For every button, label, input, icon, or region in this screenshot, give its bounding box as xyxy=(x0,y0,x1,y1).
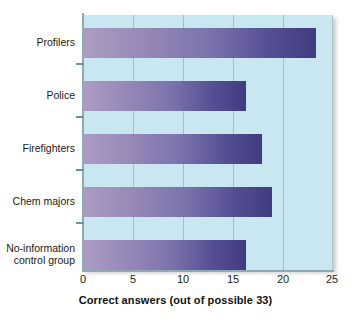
x-tick-label-25: 25 xyxy=(317,273,347,285)
x-tick-label-15: 15 xyxy=(218,273,248,285)
bar-no-information-control-group xyxy=(83,240,246,270)
category-label-profilers: Profilers xyxy=(0,36,75,48)
category-label-text: Firefighters xyxy=(22,142,75,154)
y-axis-tick-2 xyxy=(76,116,84,118)
category-label-police: Police xyxy=(0,89,75,101)
category-label-text: Police xyxy=(46,89,75,101)
y-axis-line xyxy=(82,13,84,272)
x-tick-label-10: 10 xyxy=(168,273,198,285)
category-label-text: Profilers xyxy=(36,36,75,48)
x-axis-title: Correct answers (out of possible 33) xyxy=(0,294,351,306)
bar-firefighters xyxy=(83,134,262,164)
category-label-text-line2: control group xyxy=(0,254,75,266)
y-axis-tick-1 xyxy=(76,63,84,65)
x-tick-label-5: 5 xyxy=(118,273,148,285)
category-label-firefighters: Firefighters xyxy=(0,142,75,154)
bar-chem-majors xyxy=(83,187,272,217)
gridline-25 xyxy=(332,15,333,270)
category-label-chem-majors: Chem majors xyxy=(0,195,75,207)
y-axis-tick-3 xyxy=(76,169,84,171)
x-axis-line xyxy=(82,270,334,272)
category-label-text: Chem majors xyxy=(13,195,75,207)
x-tick-label-20: 20 xyxy=(268,273,298,285)
bar-profilers xyxy=(83,28,316,58)
plot-area xyxy=(83,15,333,270)
category-label-text-line1: No-information xyxy=(6,242,75,254)
y-axis-tick-4 xyxy=(76,222,84,224)
bar-police xyxy=(83,81,246,111)
bar-chart-figure: Profilers Police Firefighters Chem major… xyxy=(0,0,351,321)
category-label-no-information-control-group: No-information control group xyxy=(0,242,75,266)
x-tick-label-0: 0 xyxy=(68,273,98,285)
